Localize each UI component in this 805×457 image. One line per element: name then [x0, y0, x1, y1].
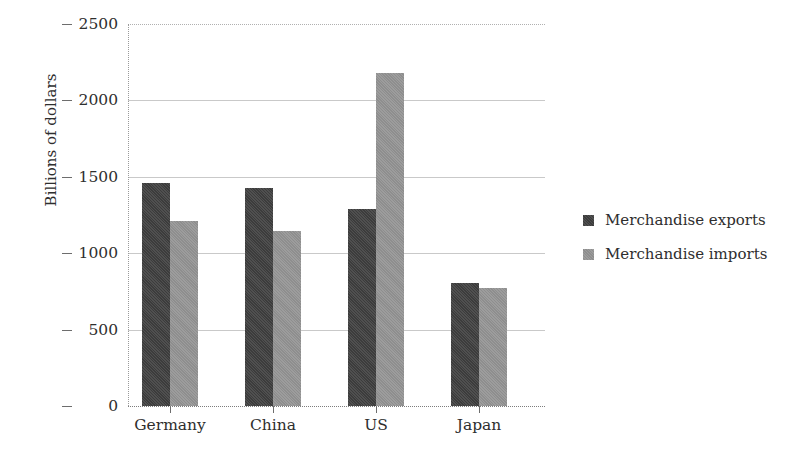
x-axis-tick-label: US — [316, 416, 436, 434]
x-axis-tick-label: Germany — [110, 416, 230, 434]
legend-item-label: Merchandise imports — [605, 245, 767, 263]
bar[interactable] — [170, 221, 198, 406]
bar[interactable] — [376, 73, 404, 406]
y-axis-tick-mark — [62, 253, 72, 254]
bar[interactable] — [451, 283, 479, 406]
bar-group — [451, 24, 507, 406]
plot-area — [128, 24, 545, 406]
legend-swatch-icon — [583, 215, 594, 226]
y-axis-tick-labels: 05001000150020002500 — [56, 24, 118, 406]
bar[interactable] — [142, 183, 170, 406]
x-axis-line — [128, 406, 545, 408]
x-axis-tick-mark — [170, 406, 171, 413]
bars-layer — [128, 24, 545, 406]
chart-legend: Merchandise exportsMerchandise imports — [583, 203, 798, 271]
bar[interactable] — [273, 231, 301, 406]
y-axis-tick-mark — [62, 330, 72, 331]
bar[interactable] — [348, 209, 376, 406]
y-axis-tick-mark — [62, 100, 72, 101]
bar[interactable] — [245, 188, 273, 407]
bar-chart: Billions of dollars 05001000150020002500… — [0, 0, 805, 457]
bar[interactable] — [479, 288, 507, 406]
y-axis-tick-mark — [62, 24, 72, 25]
bar-group — [348, 24, 404, 406]
legend-item-label: Merchandise exports — [605, 211, 766, 229]
x-axis-tick-label: China — [213, 416, 333, 434]
x-axis-tick-mark — [273, 406, 274, 413]
x-axis-tick-mark — [376, 406, 377, 413]
legend-item[interactable]: Merchandise exports — [583, 203, 798, 237]
bar-group — [245, 24, 301, 406]
y-axis-tick-mark — [62, 406, 72, 407]
x-axis-tick-label: Japan — [419, 416, 539, 434]
x-axis-tick-mark — [479, 406, 480, 413]
legend-item[interactable]: Merchandise imports — [583, 237, 798, 271]
legend-swatch-icon — [583, 249, 594, 260]
y-axis-tick-mark — [62, 177, 72, 178]
bar-group — [142, 24, 198, 406]
